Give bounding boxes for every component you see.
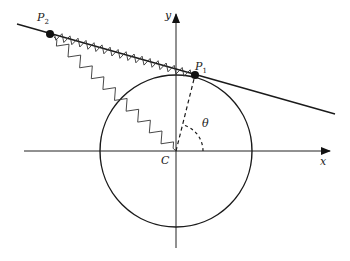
label-p2: P2	[37, 12, 49, 26]
radius-dashed	[176, 75, 195, 151]
angle-arc	[183, 125, 204, 151]
point-p2	[46, 30, 54, 38]
diagram-svg	[0, 0, 350, 261]
label-y-axis: y	[165, 10, 171, 21]
spring-to-center	[54, 37, 176, 151]
diagram-canvas: P2 P1 y x C θ	[0, 0, 350, 261]
label-p1: P1	[195, 61, 207, 75]
label-theta: θ	[202, 118, 209, 129]
label-x-axis: x	[320, 156, 326, 167]
label-center-c: C	[161, 155, 169, 166]
